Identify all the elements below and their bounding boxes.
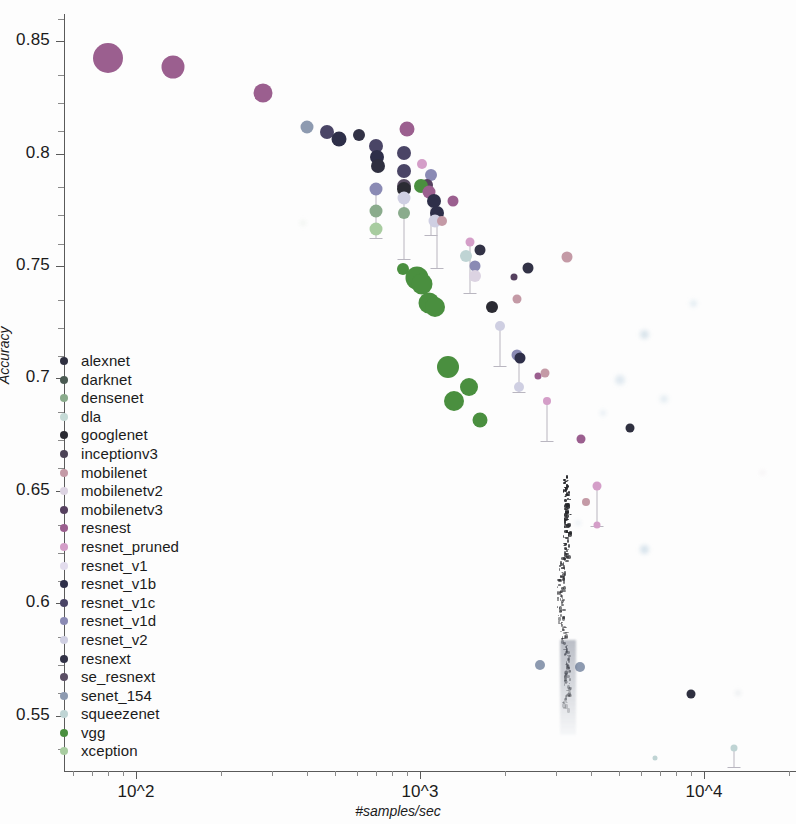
y-tick-label: 0.55 [16, 705, 50, 725]
ghost-mark [760, 470, 765, 475]
ghost-mark [615, 375, 625, 385]
legend-item-label: resnet_v1c [81, 594, 155, 611]
data-point [543, 397, 551, 405]
data-point [370, 222, 383, 235]
data-point [486, 301, 498, 313]
x-tick-minor [691, 771, 692, 776]
x-tick-minor [505, 771, 506, 776]
legend-item-label: dla [81, 408, 101, 425]
data-point [515, 353, 526, 364]
x-axis-line [64, 771, 796, 772]
legend-marker-icon [60, 376, 68, 384]
x-tick [704, 771, 705, 779]
x-tick-minor [407, 771, 408, 776]
ghost-mark [300, 220, 306, 226]
data-point [300, 120, 313, 133]
legend-marker-icon [60, 450, 68, 458]
legend-item-label: darknet [81, 371, 132, 388]
legend-marker-icon [60, 357, 68, 365]
data-point [444, 391, 464, 411]
data-point [437, 216, 447, 226]
data-point [253, 84, 272, 103]
data-point [466, 238, 475, 247]
ghost-mark [600, 410, 606, 416]
ghost-mark [660, 395, 668, 403]
stem-line [546, 401, 547, 441]
legend-item-label: se_resnext [81, 668, 155, 685]
legend-item-label: xception [81, 742, 138, 759]
legend-item-label: vgg [81, 724, 106, 741]
y-tick-label: 0.85 [16, 30, 50, 50]
legend-marker-icon [60, 580, 68, 588]
data-point [469, 270, 481, 282]
stem-cap [398, 259, 411, 260]
x-tick [420, 771, 421, 779]
scan-smudge-fade [560, 640, 576, 735]
x-tick-minor [272, 771, 273, 776]
legend-item-label: resnet_pruned [81, 538, 179, 555]
data-point [562, 252, 573, 263]
legend-item-label: mobilenet [81, 464, 147, 481]
data-point [397, 164, 411, 178]
legend-marker-icon [60, 413, 68, 421]
y-tick-label: 0.7 [26, 367, 50, 387]
data-point [731, 745, 738, 752]
y-tick [56, 266, 64, 267]
data-point [460, 250, 472, 262]
legend-marker-icon [60, 431, 68, 439]
stem-line [500, 326, 501, 366]
stem-cap [370, 238, 383, 239]
y-tick [56, 154, 64, 155]
legend-marker-icon [60, 562, 68, 570]
data-point [332, 132, 347, 147]
y-axis-title: Accuracy [0, 326, 12, 384]
data-point [448, 195, 459, 206]
data-point [398, 191, 411, 204]
ghost-mark [575, 520, 581, 526]
stem-cap [728, 767, 741, 768]
x-tick-minor [376, 771, 377, 776]
data-point [437, 356, 459, 378]
legend-item-label: resnet_v1 [81, 557, 148, 574]
data-point [371, 159, 385, 173]
legend-marker-icon [60, 617, 68, 625]
x-tick-label: 10^4 [685, 782, 722, 802]
y-tick [56, 41, 64, 42]
data-point [370, 182, 383, 195]
legend-marker-icon [60, 729, 68, 737]
chart-canvas: Accuracy #samples/sec 0.850.80.750.70.65… [0, 0, 796, 824]
data-point [594, 521, 601, 528]
data-point [495, 321, 505, 331]
x-tick-minor [789, 771, 790, 776]
data-point [626, 423, 635, 432]
data-point [370, 205, 383, 218]
data-point [535, 660, 545, 670]
stem-cap [494, 366, 507, 367]
x-tick-minor [108, 771, 109, 776]
legend-marker-icon [60, 747, 68, 755]
stem-line [597, 486, 598, 525]
legend-item-label: densenet [81, 389, 144, 406]
legend-marker-icon [60, 506, 68, 514]
legend-marker-icon [60, 394, 68, 402]
x-tick-minor [73, 771, 74, 776]
x-tick-minor [591, 771, 592, 776]
x-tick-minor [307, 771, 308, 776]
data-point [593, 482, 602, 491]
legend-item-label: resnet_v1b [81, 575, 156, 592]
y-tick-label: 0.65 [16, 480, 50, 500]
ghost-mark [690, 300, 697, 307]
x-tick-label: 10^2 [117, 782, 154, 802]
legend-item-label: resnet_v2 [81, 631, 148, 648]
legend-item-label: squeezenet [81, 705, 160, 722]
x-axis-title: #samples/sec [0, 803, 796, 819]
x-tick-minor [676, 771, 677, 776]
legend-marker-icon [60, 524, 68, 532]
legend-marker-icon [60, 655, 68, 663]
data-point [474, 245, 485, 256]
data-point [400, 121, 415, 136]
data-point [511, 274, 518, 281]
data-point [425, 297, 445, 317]
stem-cap [464, 293, 477, 294]
y-tick-label: 0.75 [16, 255, 50, 275]
